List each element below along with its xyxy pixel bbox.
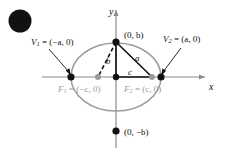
x-axis-arrow bbox=[199, 74, 205, 79]
side-a-label: a bbox=[135, 54, 140, 63]
vertex-left-value: = (−a, 0) bbox=[42, 37, 73, 47]
leader-line-v2 bbox=[163, 48, 181, 72]
center-dot bbox=[113, 74, 119, 80]
co-vertex-bottom-dot bbox=[112, 127, 119, 134]
vertex-right-label: V2 = (a, 0) bbox=[163, 35, 200, 45]
y-axis-arrow bbox=[113, 10, 118, 16]
y-axis-label: y bbox=[109, 7, 113, 17]
vertex-left-subscript: 1 bbox=[37, 40, 40, 47]
vertex-left-dot bbox=[67, 73, 74, 80]
leader-line-v1 bbox=[49, 49, 69, 72]
focus-right-dot bbox=[149, 74, 155, 80]
focus-left-label: F1 = (−c, 0) bbox=[58, 85, 100, 95]
side-b-label: b bbox=[106, 57, 111, 66]
co-vertex-bottom-label: (0, −b) bbox=[124, 128, 149, 137]
diagram-canvas bbox=[0, 0, 229, 154]
focus-left-value: = (−c, 0) bbox=[69, 84, 100, 94]
vertex-right-value: = (a, 0) bbox=[174, 34, 200, 44]
focus-left-dot bbox=[95, 74, 101, 80]
ellipse-diagram: y x V1 = (−a, 0) V2 = (a, 0) F1 = (−c, 0… bbox=[0, 0, 229, 154]
focus-right-label: F2 = (c, 0) bbox=[124, 85, 161, 95]
focus-left-subscript: 1 bbox=[64, 87, 67, 94]
vertex-right-subscript: 2 bbox=[169, 37, 172, 44]
co-vertex-top-dot bbox=[112, 38, 119, 45]
x-axis-label: x bbox=[209, 82, 213, 92]
co-vertex-top-label: (0, b) bbox=[124, 31, 144, 40]
vertex-right-dot bbox=[157, 73, 164, 80]
focus-right-value: = (c, 0) bbox=[135, 84, 161, 94]
decorative-blob bbox=[9, 10, 32, 33]
side-c-label: c bbox=[128, 68, 132, 77]
segment-a bbox=[116, 42, 152, 77]
focus-right-subscript: 2 bbox=[130, 87, 133, 94]
vertex-left-label: V1 = (−a, 0) bbox=[31, 38, 73, 48]
